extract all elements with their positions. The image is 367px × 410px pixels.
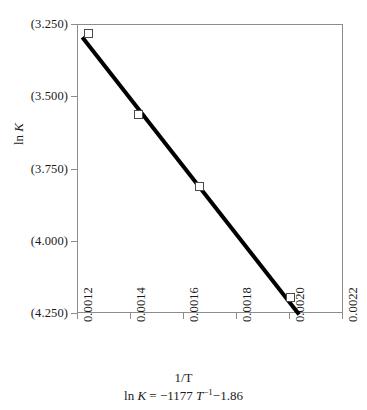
x-tick-label: 0.0020 [294, 287, 307, 322]
x-tick-mark [183, 313, 184, 319]
x-tick-mark [130, 313, 131, 319]
equation-tail: −1.86 [213, 388, 243, 403]
x-tick-label: 0.0018 [241, 287, 254, 322]
data-point-marker [286, 293, 295, 302]
equation-exponent: −1 [203, 387, 213, 397]
x-tick-mark [77, 313, 78, 319]
y-tick-label: (3.750) [31, 163, 68, 176]
x-tick-label: 0.0022 [347, 287, 360, 322]
equation-k-symbol: K [137, 388, 146, 403]
y-tick-label: (3.500) [31, 90, 68, 103]
data-point-marker [84, 29, 93, 38]
y-tick-label: (4.000) [31, 235, 68, 248]
arrhenius-plot-figure: (3.250) (3.500) (3.750) (4.000) (4.250) … [0, 0, 367, 410]
y-tick-mark [71, 169, 77, 170]
equation-operator: = −1177 [146, 388, 196, 403]
regression-equation: ln K = −1177 T−1−1.86 [0, 388, 367, 404]
x-tick-label: 0.0012 [82, 287, 95, 322]
x-tick-mark [342, 313, 343, 319]
y-axis-title: ln K [11, 123, 27, 145]
x-tick-label: 0.0016 [188, 287, 201, 322]
data-point-marker [134, 110, 143, 119]
y-tick-mark [71, 241, 77, 242]
x-tick-mark [289, 313, 290, 319]
y-axis-title-symbol: K [11, 123, 26, 132]
plot-frame [77, 24, 343, 313]
y-tick-mark [71, 96, 77, 97]
x-tick-mark [236, 313, 237, 319]
y-tick-label: (3.250) [31, 18, 68, 31]
x-axis-title: 1/T [0, 370, 367, 386]
equation-lead: ln [124, 388, 137, 403]
data-point-marker [195, 182, 204, 191]
y-tick-label: (4.250) [31, 307, 68, 320]
y-tick-mark [71, 24, 77, 25]
x-tick-label: 0.0014 [135, 287, 148, 322]
